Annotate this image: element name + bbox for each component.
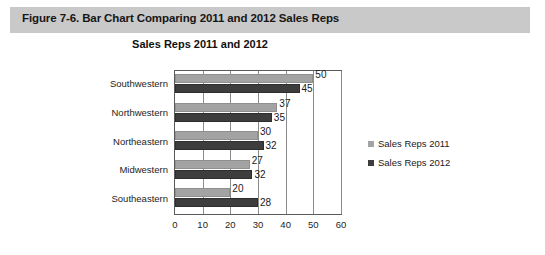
bar-value-label: 35: [274, 113, 285, 122]
category-label: Northeastern: [64, 136, 168, 147]
value-axis: 0102030405060: [174, 219, 342, 235]
bar-value-label: 27: [252, 156, 263, 165]
legend-label: Sales Reps 2011: [378, 138, 450, 149]
x-tick-label: 20: [225, 219, 236, 230]
x-tick-label: 50: [308, 219, 319, 230]
figure-caption: Figure 7-6. Bar Chart Comparing 2011 and…: [22, 12, 339, 24]
category-label: Midwestern: [64, 164, 168, 175]
legend-swatch-icon: [368, 160, 374, 166]
figure-container: Figure 7-6. Bar Chart Comparing 2011 and…: [0, 0, 545, 255]
legend-item[interactable]: Sales Reps 2012: [368, 157, 450, 168]
x-tick-label: 0: [172, 219, 177, 230]
bar-value-label: 32: [254, 170, 265, 179]
chart-legend: Sales Reps 2011Sales Reps 2012: [368, 138, 450, 176]
legend-label: Sales Reps 2012: [378, 157, 450, 168]
legend-item[interactable]: Sales Reps 2011: [368, 138, 450, 149]
bar-value-label: 32: [266, 141, 277, 150]
x-tick-label: 40: [280, 219, 291, 230]
category-label: Northwestern: [64, 107, 168, 118]
bar-value-label: 50: [315, 70, 326, 79]
bar-value-label: 45: [302, 84, 313, 93]
category-axis: SouthwesternNorthwesternNortheasternMidw…: [64, 70, 168, 215]
legend-swatch-icon: [368, 141, 374, 147]
x-tick-label: 10: [197, 219, 208, 230]
x-tick-label: 60: [336, 219, 347, 230]
category-label: Southeastern: [64, 193, 168, 204]
chart-title: Sales Reps 2011 and 2012: [0, 38, 400, 50]
x-tick-label: 30: [253, 219, 264, 230]
bar-value-label: 30: [260, 127, 271, 136]
bar-value-label: 37: [279, 99, 290, 108]
bar-value-label: 20: [232, 184, 243, 193]
bar-value-label: 28: [260, 198, 271, 207]
category-label: Southwestern: [64, 78, 168, 89]
